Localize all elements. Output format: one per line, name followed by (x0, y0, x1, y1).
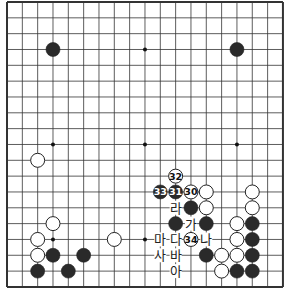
black-stone (245, 217, 259, 231)
black-stone (245, 264, 259, 278)
go-board: 라가마다나사바아3233313034 (0, 0, 288, 297)
point-label: 사 (154, 248, 166, 263)
black-stone (245, 248, 259, 262)
black-stone (31, 264, 45, 278)
black-stone (230, 42, 244, 56)
point-label: 바 (170, 248, 182, 263)
white-stone (245, 201, 259, 215)
black-stone (77, 248, 91, 262)
black-stone (199, 248, 213, 262)
white-stone (199, 201, 213, 215)
point-label: 마 (154, 232, 166, 247)
white-stone (215, 264, 229, 278)
black-stone (199, 217, 213, 231)
white-stone (31, 153, 45, 167)
white-stone (245, 185, 259, 199)
move-number: 31 (169, 186, 182, 197)
white-stone (46, 217, 60, 231)
star-point (143, 237, 147, 241)
black-stone (245, 232, 259, 246)
star-point (143, 47, 147, 51)
point-label: 라 (170, 201, 182, 216)
white-stone (230, 232, 244, 246)
black-stone (184, 201, 198, 215)
point-label: 나 (200, 232, 212, 247)
star-point (235, 142, 239, 146)
star-point (51, 237, 55, 241)
black-stone (46, 42, 60, 56)
black-stone (169, 217, 183, 231)
move-number: 34 (184, 234, 198, 245)
white-stone (31, 248, 45, 262)
white-stone (199, 185, 213, 199)
move-number: 33 (154, 186, 167, 197)
star-point (143, 142, 147, 146)
point-label: 다 (170, 232, 182, 247)
white-stone (215, 248, 229, 262)
move-number: 32 (169, 171, 182, 182)
black-stone (230, 264, 244, 278)
move-number: 30 (184, 186, 198, 197)
star-point (51, 142, 55, 146)
black-stone (46, 248, 60, 262)
point-label: 가 (185, 217, 197, 232)
point-label: 아 (170, 264, 182, 279)
white-stone (107, 232, 121, 246)
white-stone (230, 217, 244, 231)
white-stone (230, 248, 244, 262)
black-stone (61, 264, 75, 278)
white-stone (31, 232, 45, 246)
